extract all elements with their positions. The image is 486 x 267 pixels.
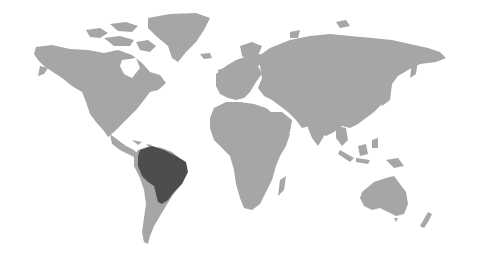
new-zealand: [420, 212, 432, 228]
asia: [256, 20, 446, 146]
maritime-southeast-asia: [338, 138, 404, 168]
north-america: [34, 22, 166, 158]
europe: [216, 42, 266, 100]
world-map-svg: [0, 0, 486, 267]
australia: [360, 176, 408, 216]
tasmania: [394, 218, 398, 222]
world-map: [0, 0, 486, 267]
iceland: [200, 53, 212, 59]
south-america: [134, 146, 188, 244]
madagascar: [278, 176, 286, 196]
